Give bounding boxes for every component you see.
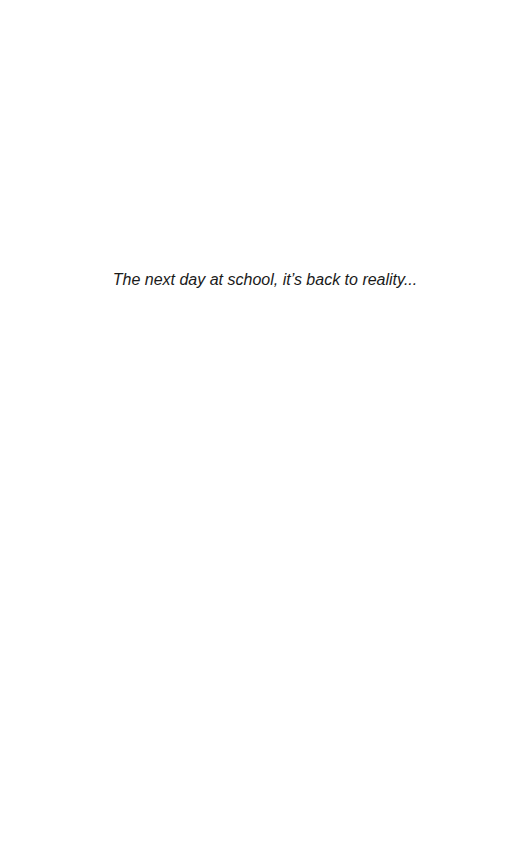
narrative-caption: The next day at school, it’s back to rea… bbox=[0, 270, 530, 290]
document-page: The next day at school, it’s back to rea… bbox=[0, 0, 530, 866]
